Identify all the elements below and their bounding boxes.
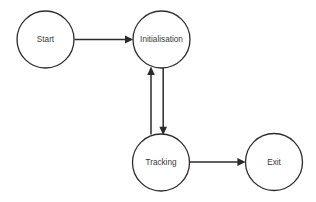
node-tracking[interactable]: Tracking (133, 134, 190, 191)
node-start[interactable]: Start (17, 11, 74, 68)
arrowhead-up-icon (147, 67, 155, 75)
edge-tracking-to-exit (190, 158, 246, 166)
node-label-exit: Exit (267, 158, 281, 167)
node-exit[interactable]: Exit (246, 134, 303, 191)
node-label-initialisation: Initialisation (140, 35, 183, 44)
state-diagram: Start Initialisation Tracking Exit (0, 0, 316, 202)
arrowhead-right-icon (237, 158, 245, 166)
diagram-canvas: Start Initialisation Tracking Exit (0, 0, 316, 202)
node-label-tracking: Tracking (145, 158, 177, 167)
arrowhead-right-icon (125, 36, 133, 44)
edge-tracking-to-initialisation (147, 67, 155, 135)
edge-initialisation-to-tracking (159, 68, 167, 136)
node-label-start: Start (37, 35, 55, 44)
node-initialisation[interactable]: Initialisation (133, 11, 190, 68)
edge-start-to-initialisation (75, 36, 134, 44)
